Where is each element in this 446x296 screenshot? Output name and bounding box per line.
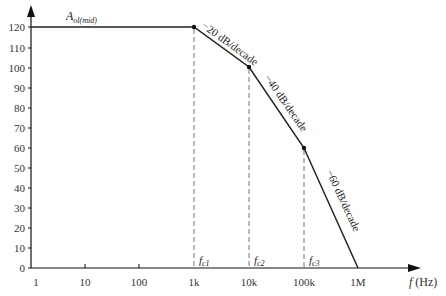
y-tick-label: 0 (20, 262, 26, 274)
y-tick-label: 30 (14, 202, 26, 214)
y-tick-label: 50 (14, 162, 26, 174)
y-tick-label: 80 (14, 102, 26, 114)
y-tick-label: 120 (9, 21, 26, 33)
x-axis-label: f (Hz) (409, 275, 437, 289)
slope-label-20: −20 dB/decade (200, 19, 261, 68)
y-tick-label: 60 (14, 142, 26, 154)
x-tick-label: 1 (33, 276, 39, 288)
x-tick-label: 100k (293, 276, 316, 288)
breakpoint-dot-fc1 (192, 25, 196, 29)
fc1-label: fc1 (199, 254, 210, 268)
y-axis-arrow-icon (27, 5, 35, 17)
x-tick-label: 1M (350, 276, 366, 288)
y-tick-label: 40 (14, 182, 26, 194)
x-tick-label: 1k (189, 276, 201, 288)
midband-gain-label: Aol(mid) (65, 9, 97, 25)
y-tick-label: 110 (9, 42, 26, 54)
x-tick-label: 10k (241, 276, 258, 288)
bode-plot: 0 10 20 30 40 50 60 70 80 90 100 110 120… (0, 0, 446, 296)
slope-label-60: −60 dB/decade (324, 168, 363, 233)
x-tick-label: 10 (80, 276, 92, 288)
x-tick-labels: 1 10 100 1k 10k 100k 1M (33, 276, 366, 288)
y-tick-label: 100 (9, 62, 26, 74)
x-axis-arrow-icon (408, 264, 421, 272)
y-tick-label: 10 (14, 242, 26, 254)
slope-label-40: −40 dB/decade (262, 72, 310, 133)
fc2-label: fc2 (254, 254, 265, 268)
breakpoint-dot-fc3 (302, 146, 306, 150)
x-tick-label: 100 (131, 276, 148, 288)
y-tick-label: 20 (14, 222, 26, 234)
y-tick-label: 70 (14, 122, 26, 134)
y-tick-label: 90 (14, 82, 26, 94)
y-tick-labels: 0 10 20 30 40 50 60 70 80 90 100 110 120 (9, 21, 26, 274)
fc3-label: fc3 (309, 254, 320, 268)
